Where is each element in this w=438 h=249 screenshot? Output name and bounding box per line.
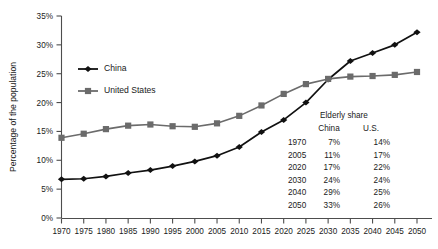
inset-table-year: 1970 — [288, 138, 307, 147]
data-point-marker — [102, 173, 109, 179]
x-axis-ticks: 1970197519801985199019952000200520102015… — [52, 219, 426, 237]
inset-table-col-china: China — [318, 124, 340, 133]
series-china — [58, 29, 421, 182]
inset-table-row: 204029%25% — [288, 188, 390, 197]
legend-marker — [85, 88, 91, 94]
x-tick-label: 1990 — [141, 227, 160, 236]
x-tick-label: 1980 — [97, 227, 116, 236]
legend-item-china[interactable]: China — [78, 63, 127, 73]
x-tick-label: 1985 — [119, 227, 138, 236]
x-tick-label: 2040 — [363, 227, 382, 236]
data-point-marker — [303, 81, 309, 87]
y-tick-label: 25% — [37, 70, 53, 79]
inset-table-row: 203024%24% — [288, 176, 390, 185]
x-tick-label: 2045 — [386, 227, 405, 236]
inset-table-year: 2040 — [288, 188, 307, 197]
data-point-marker — [392, 72, 398, 78]
x-axis: 1970197519801985199019952000200520102015… — [52, 219, 432, 237]
y-tick-label: 20% — [37, 99, 53, 108]
inset-table-china-value: 24% — [324, 176, 340, 185]
data-point-marker — [347, 74, 353, 80]
data-point-marker — [81, 131, 87, 137]
data-point-marker — [147, 167, 154, 173]
data-point-marker — [258, 102, 264, 108]
inset-table-year: 2030 — [288, 176, 307, 185]
data-point-marker — [369, 50, 376, 56]
data-point-marker — [80, 176, 87, 182]
x-tick-label: 1995 — [163, 227, 182, 236]
y-tick-label: 0% — [41, 214, 53, 223]
data-series-group — [58, 29, 421, 182]
chart-container: 0%5%10%15%20%25%30%35% Percentage of the… — [0, 0, 438, 249]
legend-label: United States — [104, 85, 156, 95]
y-axis: 0%5%10%15%20%25%30%35% Percentage of the… — [8, 12, 62, 223]
data-point-marker — [281, 91, 287, 97]
y-axis-ticks: 0%5%10%15%20%25%30%35% — [37, 12, 62, 223]
data-point-marker — [169, 123, 175, 129]
x-tick-label: 2020 — [275, 227, 294, 236]
data-point-marker — [103, 126, 109, 132]
x-tick-label: 2035 — [341, 227, 360, 236]
inset-table-title: Elderly share — [320, 111, 368, 120]
inset-table-china-value: 33% — [324, 201, 340, 210]
data-point-marker — [213, 153, 220, 159]
data-point-marker — [169, 163, 176, 169]
inset-table-col-us: U.S. — [363, 124, 379, 133]
line-chart: 0%5%10%15%20%25%30%35% Percentage of the… — [0, 0, 438, 249]
data-point-marker — [147, 121, 153, 127]
data-point-marker — [325, 76, 331, 82]
data-point-marker — [369, 73, 375, 79]
chart-legend: ChinaUnited States — [78, 63, 156, 95]
inset-table-us-value: 22% — [374, 163, 390, 172]
inset-table-row: 200511%17% — [288, 151, 390, 160]
y-tick-label: 35% — [37, 12, 53, 21]
inset-data-table: Elderly shareChinaU.S.19707%14%200511%17… — [288, 111, 390, 210]
inset-table-year: 2050 — [288, 201, 307, 210]
x-tick-label: 1975 — [75, 227, 94, 236]
inset-table-us-value: 25% — [374, 188, 390, 197]
x-tick-label: 2025 — [297, 227, 316, 236]
x-tick-label: 2000 — [186, 227, 205, 236]
inset-table-us-value: 24% — [374, 176, 390, 185]
inset-table-china-value: 11% — [324, 151, 340, 160]
inset-table-us-value: 14% — [374, 138, 390, 147]
x-tick-label: 1970 — [52, 227, 71, 236]
data-point-marker — [214, 120, 220, 126]
inset-table-row: 202017%22% — [288, 163, 390, 172]
y-tick-label: 10% — [37, 156, 53, 165]
y-axis-title: Percentage of the population — [8, 62, 18, 172]
series-line — [62, 32, 418, 179]
y-tick-label: 15% — [37, 127, 53, 136]
data-point-marker — [58, 176, 65, 182]
inset-table-china-value: 7% — [328, 138, 340, 147]
x-tick-label: 2050 — [408, 227, 427, 236]
x-tick-label: 2005 — [208, 227, 227, 236]
inset-table-year: 2020 — [288, 163, 307, 172]
x-tick-label: 2010 — [230, 227, 249, 236]
data-point-marker — [192, 124, 198, 130]
x-tick-label: 2030 — [319, 227, 338, 236]
inset-table-china-value: 29% — [324, 188, 340, 197]
legend-item-united-states[interactable]: United States — [78, 85, 156, 95]
inset-table-us-value: 17% — [374, 151, 390, 160]
inset-table-row: 19707%14% — [288, 138, 390, 147]
data-point-marker — [125, 123, 131, 129]
inset-table-china-value: 17% — [324, 163, 340, 172]
y-tick-label: 30% — [37, 41, 53, 50]
data-point-marker — [236, 113, 242, 119]
inset-table-year: 2005 — [288, 151, 307, 160]
inset-table-row: 205033%26% — [288, 201, 390, 210]
data-point-marker — [414, 69, 420, 75]
legend-marker — [84, 66, 91, 72]
x-tick-label: 2015 — [252, 227, 271, 236]
inset-table-us-value: 26% — [374, 201, 390, 210]
y-tick-label: 5% — [41, 185, 53, 194]
data-point-marker — [125, 170, 132, 176]
data-point-marker — [58, 135, 64, 141]
data-point-marker — [191, 158, 198, 164]
legend-label: China — [104, 63, 127, 73]
